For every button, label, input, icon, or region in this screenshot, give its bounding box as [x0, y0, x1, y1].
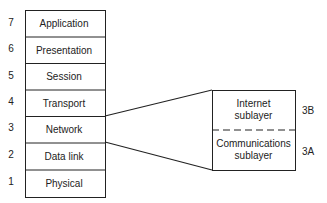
- layer-label: Data link: [45, 151, 84, 162]
- sublayer-internet: Internet sublayer: [212, 90, 295, 130]
- layer-number: 7: [5, 17, 17, 28]
- layer-label: Application: [40, 18, 89, 29]
- layer-application: Application: [25, 10, 103, 37]
- layer-number: 3: [5, 122, 17, 133]
- layer-number: 6: [5, 43, 17, 54]
- layer-label: Presentation: [36, 45, 92, 56]
- layer-data-link: Data link: [25, 143, 103, 170]
- sublayer-label: sublayer: [235, 110, 273, 122]
- layer-label: Transport: [43, 98, 85, 109]
- layer-presentation: Presentation: [25, 37, 103, 64]
- sublayer-label: Internet: [237, 98, 271, 110]
- layer-transport: Transport: [25, 90, 103, 117]
- layer-number: 1: [5, 176, 17, 187]
- layer-network: Network: [25, 117, 103, 144]
- sublayer-label: sublayer: [235, 150, 273, 162]
- layer-session: Session: [25, 64, 103, 91]
- sublayer-id: 3A: [302, 146, 314, 157]
- layer-number: 2: [5, 149, 17, 160]
- layer-number: 5: [5, 70, 17, 81]
- layer-label: Session: [46, 71, 82, 82]
- sublayer-id: 3B: [302, 105, 314, 116]
- sublayer-label: Communications: [216, 138, 290, 150]
- layer-label: Network: [46, 124, 83, 135]
- layer-label: Physical: [45, 178, 82, 189]
- layer-number: 4: [5, 96, 17, 107]
- layer-physical: Physical: [25, 170, 103, 197]
- sublayer-communications: Communications sublayer: [212, 130, 295, 170]
